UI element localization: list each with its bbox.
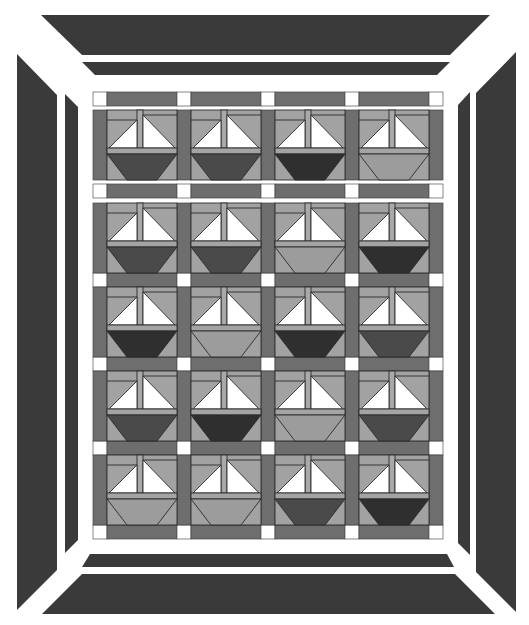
sashing-strip — [93, 203, 107, 273]
sashing-strip — [177, 203, 191, 273]
cornerstone — [177, 184, 191, 198]
sashing-strip — [359, 92, 429, 106]
cornerstone — [261, 357, 275, 371]
sailboat-block — [191, 455, 261, 525]
cornerstone — [177, 357, 191, 371]
sashing-strip — [93, 371, 107, 441]
border-inner-top — [82, 62, 450, 75]
sashing-strip — [107, 273, 177, 287]
sailboat-block — [275, 455, 345, 525]
sailboat-block — [359, 455, 429, 525]
deck — [107, 409, 177, 415]
sailboat-block — [191, 110, 261, 180]
sailboat-block — [107, 203, 177, 273]
mast — [389, 287, 395, 325]
border-outer-bottom — [42, 574, 495, 614]
mast — [389, 371, 395, 409]
deck — [107, 493, 177, 499]
sashing-strip — [191, 273, 261, 287]
deck — [191, 148, 261, 154]
sash-row — [93, 184, 443, 198]
sashing-strip — [261, 110, 275, 180]
mast — [221, 203, 227, 241]
sashing-strip — [429, 371, 443, 441]
sashing-strip — [191, 92, 261, 106]
sashing-strip — [429, 203, 443, 273]
deck — [275, 241, 345, 247]
sashing-strip — [261, 455, 275, 525]
deck — [191, 325, 261, 331]
block-row — [93, 371, 443, 441]
deck — [191, 241, 261, 247]
sashing-strip — [107, 357, 177, 371]
sailboat-block — [275, 203, 345, 273]
sashing-strip — [429, 287, 443, 357]
deck — [359, 148, 429, 154]
deck — [275, 148, 345, 154]
sashing-strip — [191, 525, 261, 539]
cornerstone — [93, 525, 107, 539]
cornerstone — [177, 441, 191, 455]
sashing-strip — [345, 287, 359, 357]
sashing-strip — [275, 525, 345, 539]
sailboat-block — [275, 110, 345, 180]
deck — [359, 493, 429, 499]
sashing-strip — [107, 525, 177, 539]
sashing-strip — [359, 273, 429, 287]
border-outer-top — [41, 15, 490, 55]
mast — [137, 371, 143, 409]
sash-row — [93, 441, 443, 455]
sailboat-block — [359, 110, 429, 180]
sashing-strip — [261, 371, 275, 441]
deck — [191, 409, 261, 415]
mast — [305, 287, 311, 325]
quilt-center-field — [93, 92, 443, 539]
sashing-strip — [261, 203, 275, 273]
mast — [221, 287, 227, 325]
sash-row — [93, 357, 443, 371]
mast — [389, 203, 395, 241]
sailboat-block — [191, 287, 261, 357]
cornerstone — [261, 92, 275, 106]
sailboat-block — [191, 371, 261, 441]
block-row — [93, 203, 443, 273]
deck — [359, 409, 429, 415]
cornerstone — [177, 273, 191, 287]
mast — [137, 455, 143, 493]
sashing-strip — [177, 371, 191, 441]
border-outer-right — [476, 52, 516, 612]
cornerstone — [429, 525, 443, 539]
sashing-strip — [107, 92, 177, 106]
cornerstone — [345, 273, 359, 287]
block-row — [93, 287, 443, 357]
cornerstone — [429, 357, 443, 371]
deck — [275, 409, 345, 415]
mast — [221, 110, 227, 148]
block-row — [93, 110, 443, 180]
sashing-strip — [345, 371, 359, 441]
sashing-strip — [191, 357, 261, 371]
sashing-strip — [107, 184, 177, 198]
sashing-strip — [275, 441, 345, 455]
deck — [275, 493, 345, 499]
mast — [389, 455, 395, 493]
cornerstone — [345, 184, 359, 198]
sailboat-block — [191, 203, 261, 273]
border-inner-bottom — [82, 554, 454, 567]
cornerstone — [93, 184, 107, 198]
cornerstone — [261, 184, 275, 198]
deck — [107, 241, 177, 247]
deck — [275, 325, 345, 331]
mast — [305, 203, 311, 241]
sailboat-block — [107, 455, 177, 525]
border-inner-left — [65, 94, 78, 553]
cornerstone — [345, 357, 359, 371]
cornerstone — [177, 92, 191, 106]
cornerstone — [93, 357, 107, 371]
mast — [137, 110, 143, 148]
deck — [191, 493, 261, 499]
cornerstone — [429, 92, 443, 106]
mast — [137, 287, 143, 325]
mast — [305, 110, 311, 148]
cornerstone — [429, 184, 443, 198]
